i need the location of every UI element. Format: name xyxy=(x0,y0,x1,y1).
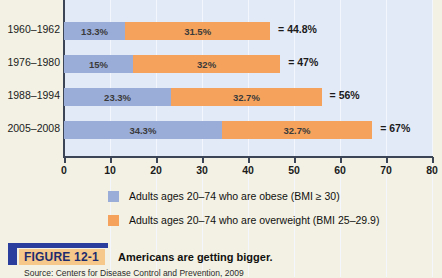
figure-source: Source: Centers for Disease Control and … xyxy=(24,268,244,278)
legend-item-overweight: Adults ages 20–74 who are overweight (BM… xyxy=(108,210,428,230)
x-tick-label-70: 70 xyxy=(380,164,392,176)
bar-row: 1988–199423.3%32.7%= 56% xyxy=(0,88,442,106)
bar-row: 1976–198015%32%= 47% xyxy=(0,55,442,73)
x-tick-label-10: 10 xyxy=(104,164,116,176)
x-tick-label-40: 40 xyxy=(242,164,254,176)
chart-legend: Adults ages 20–74 who are obese (BMI ≥ 3… xyxy=(108,186,428,234)
tick-mark-40 xyxy=(248,157,250,163)
tick-mark-30 xyxy=(202,157,204,163)
bar-segment-overweight: 32.7% xyxy=(171,88,321,106)
legend-swatch-obese-icon xyxy=(108,191,119,202)
bar-total-label: = 56% xyxy=(330,89,360,101)
bar-segment-overweight: 32.7% xyxy=(222,121,372,139)
caption-top-rule xyxy=(8,243,108,248)
tick-mark-60 xyxy=(340,157,342,163)
bar-total-label: = 44.8% xyxy=(278,23,317,35)
legend-label-overweight: Adults ages 20–74 who are overweight (BM… xyxy=(129,214,379,226)
legend-item-obese: Adults ages 20–74 who are obese (BMI ≥ 3… xyxy=(108,186,428,206)
category-label-1988–1994: 1988–1994 xyxy=(2,89,60,101)
caption-blue-marker xyxy=(8,248,17,265)
bar-total-label: = 67% xyxy=(380,122,410,134)
tick-mark-70 xyxy=(386,157,388,163)
tick-mark-0 xyxy=(64,157,66,163)
x-tick-label-80: 80 xyxy=(426,164,438,176)
legend-swatch-overweight-icon xyxy=(108,215,119,226)
x-tick-label-0: 0 xyxy=(61,164,67,176)
bar-segment-overweight: 32% xyxy=(133,55,280,73)
bar-row: 2005–200834.3%32.7%= 67% xyxy=(0,121,442,139)
bar-segment-obese: 23.3% xyxy=(64,88,171,106)
bar-segment-obese: 15% xyxy=(64,55,133,73)
bar-segment-obese: 13.3% xyxy=(64,22,125,40)
x-tick-label-60: 60 xyxy=(334,164,346,176)
x-tick-label-20: 20 xyxy=(150,164,162,176)
bar-total-label: = 47% xyxy=(288,56,318,68)
bar-segment-overweight: 31.5% xyxy=(125,22,270,40)
category-label-1960–1962: 1960–1962 xyxy=(2,23,60,35)
x-tick-label-50: 50 xyxy=(288,164,300,176)
tick-mark-10 xyxy=(110,157,112,163)
category-label-2005–2008: 2005–2008 xyxy=(2,122,60,134)
bar-segment-obese: 34.3% xyxy=(64,121,222,139)
tick-mark-20 xyxy=(156,157,158,163)
tick-mark-50 xyxy=(294,157,296,163)
x-tick-label-30: 30 xyxy=(196,164,208,176)
figure-number-label: FIGURE 12-1 xyxy=(24,250,99,264)
legend-label-obese: Adults ages 20–74 who are obese (BMI ≥ 3… xyxy=(129,190,340,202)
category-label-1976–1980: 1976–1980 xyxy=(2,56,60,68)
bar-row: 1960–196213.3%31.5%= 44.8% xyxy=(0,22,442,40)
tick-mark-80 xyxy=(432,157,434,163)
figure-title: Americans are getting bigger. xyxy=(118,251,273,263)
